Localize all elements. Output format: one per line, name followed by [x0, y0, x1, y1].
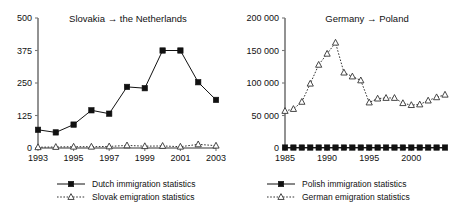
data-point-square — [350, 145, 355, 150]
data-point-triangle — [425, 97, 431, 103]
x-tick-label: 1995 — [64, 153, 84, 163]
data-point-square — [142, 86, 147, 91]
data-point-triangle — [195, 141, 201, 147]
data-point-square — [160, 48, 165, 53]
legend-entry: Polish immigration statistics — [267, 179, 406, 189]
data-point-square — [124, 84, 129, 89]
legend-entry: Dutch immigration statistics — [57, 179, 195, 189]
legend-entry: Slovak emigration statistics — [57, 192, 195, 202]
data-point-triangle — [106, 143, 112, 149]
data-point-square — [299, 145, 304, 150]
y-tick-label: 250 — [17, 78, 32, 88]
data-point-triangle — [159, 143, 165, 149]
data-point-triangle — [307, 80, 313, 86]
x-tick-label: 1997 — [99, 153, 119, 163]
data-point-square — [358, 145, 363, 150]
data-point-square — [308, 145, 313, 150]
data-point-triangle — [332, 39, 338, 45]
x-tick-label: 1995 — [359, 153, 379, 163]
data-point-square — [316, 145, 321, 150]
y-tick-label: 375 — [17, 46, 32, 56]
y-tick-label: 500 — [17, 13, 32, 23]
data-point-square — [367, 145, 372, 150]
chart-panel-germany-poland: Germany → Poland050 000100 000150 000200… — [227, 0, 453, 217]
chart-panel-slovakia-netherlands: Slovakia → the Netherlands01252503755001… — [0, 0, 226, 217]
data-point-square — [417, 145, 422, 150]
legend-label: Polish immigration statistics — [302, 179, 406, 189]
legend-label: Slovak emigration statistics — [92, 192, 195, 202]
x-tick-label: 2001 — [170, 153, 190, 163]
series-filled-square — [282, 145, 447, 150]
y-tick-label: 50 000 — [251, 111, 279, 121]
chart-svg-slovakia-netherlands: Slovakia → the Netherlands01252503755001… — [0, 0, 226, 217]
x-tick-label: 1999 — [135, 153, 155, 163]
data-point-square — [68, 181, 73, 186]
y-tick-label: 125 — [17, 111, 32, 121]
data-point-triangle — [341, 69, 347, 75]
y-tick-label: 200 000 — [246, 13, 279, 23]
x-tick-label: 1990 — [317, 153, 337, 163]
series-filled-square — [35, 48, 218, 135]
data-point-square — [341, 145, 346, 150]
data-point-square — [442, 145, 447, 150]
data-point-square — [434, 145, 439, 150]
x-tick-label: 2003 — [206, 153, 226, 163]
data-point-square — [409, 145, 414, 150]
y-tick-label: 0 — [274, 143, 279, 153]
data-point-triangle — [299, 98, 305, 104]
chart-svg-germany-poland: Germany → Poland050 000100 000150 000200… — [227, 0, 453, 217]
data-point-square — [383, 145, 388, 150]
data-point-square — [324, 145, 329, 150]
figure-container: Slovakia → the Netherlands01252503755001… — [0, 0, 453, 217]
data-point-triangle — [383, 95, 389, 101]
x-tick-label: 1985 — [275, 153, 295, 163]
x-tick-label: 2000 — [401, 153, 421, 163]
legend-entry: German emigration statistics — [267, 192, 410, 202]
data-point-square — [178, 48, 183, 53]
data-point-triangle — [391, 95, 397, 101]
data-point-square — [291, 145, 296, 150]
y-tick-label: 100 000 — [246, 78, 279, 88]
series-line — [38, 51, 216, 133]
data-point-square — [35, 127, 40, 132]
legend-label: German emigration statistics — [302, 192, 410, 202]
data-point-triangle — [282, 108, 288, 114]
data-point-square — [282, 145, 287, 150]
data-point-square — [196, 80, 201, 85]
data-point-triangle — [442, 91, 448, 97]
data-point-square — [400, 145, 405, 150]
data-point-triangle — [290, 106, 296, 112]
data-point-square — [392, 145, 397, 150]
data-point-square — [425, 145, 430, 150]
data-point-square — [333, 145, 338, 150]
legend-label: Dutch immigration statistics — [92, 179, 195, 189]
data-point-triangle — [35, 144, 41, 150]
data-point-triangle — [316, 61, 322, 67]
series-open-triangle — [282, 39, 448, 113]
x-tick-label: 1993 — [28, 153, 48, 163]
data-point-square — [89, 108, 94, 113]
data-point-square — [107, 111, 112, 116]
series-line — [285, 43, 445, 111]
y-tick-label: 150 000 — [246, 46, 279, 56]
data-point-square — [53, 130, 58, 135]
data-point-square — [278, 181, 283, 186]
y-tick-label: 0 — [27, 143, 32, 153]
data-point-square — [375, 145, 380, 150]
chart-title: Germany → Poland — [325, 13, 408, 24]
data-point-triangle — [124, 142, 130, 148]
data-point-square — [213, 97, 218, 102]
data-point-triangle — [70, 143, 76, 149]
data-point-triangle — [417, 101, 423, 107]
data-point-triangle — [400, 100, 406, 106]
chart-title: Slovakia → the Netherlands — [69, 13, 187, 24]
data-point-square — [71, 122, 76, 127]
